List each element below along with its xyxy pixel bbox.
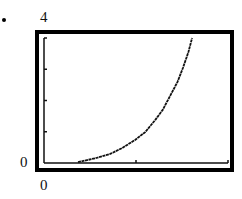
graph-frame bbox=[37, 32, 232, 170]
tick-marks bbox=[44, 38, 228, 163]
axes bbox=[44, 38, 228, 163]
function-curve bbox=[78, 38, 192, 162]
graph-window bbox=[0, 0, 242, 199]
